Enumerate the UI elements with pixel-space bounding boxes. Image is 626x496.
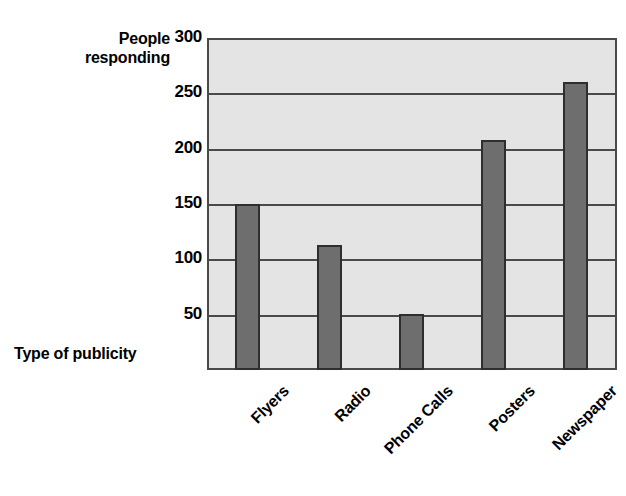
x-axis-category-label: Flyers xyxy=(247,382,292,427)
y-axis-tick-labels: 50100150200250300 xyxy=(140,0,202,496)
x-axis-category-label: Phone Calls xyxy=(381,382,457,458)
bar-chart: People responding Type of publicity 5010… xyxy=(0,0,626,496)
x-axis-category-label: Posters xyxy=(485,382,538,435)
y-axis-tick-label: 50 xyxy=(146,304,202,324)
gridline xyxy=(209,204,615,206)
y-axis-tick-label: 100 xyxy=(146,248,202,268)
bar xyxy=(481,140,506,370)
gridline xyxy=(209,259,615,261)
y-axis-tick-label: 200 xyxy=(146,138,202,158)
bar xyxy=(235,204,260,370)
y-axis-tick-label: 250 xyxy=(146,82,202,102)
x-axis-category-labels: FlyersRadioPhone CallsPostersNewspaper xyxy=(207,372,617,496)
x-axis-category-label: Radio xyxy=(331,382,374,425)
y-axis-tick-label: 300 xyxy=(146,27,202,47)
gridline xyxy=(209,93,615,95)
x-axis-category-label: Newspaper xyxy=(549,382,621,454)
gridline xyxy=(209,149,615,151)
bar xyxy=(399,314,424,370)
y-axis-tick-label: 150 xyxy=(146,193,202,213)
bar xyxy=(563,82,588,370)
bar xyxy=(317,245,342,370)
plot-area xyxy=(207,38,617,370)
